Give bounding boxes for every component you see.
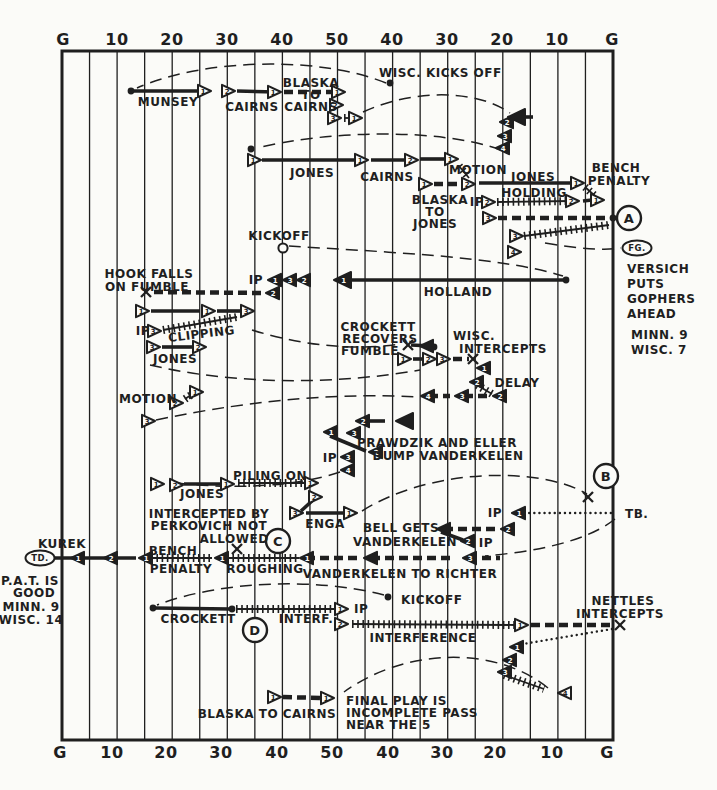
down-number: 2: [569, 198, 574, 206]
label-prawdzik-and-eller: PRAWDZIK AND ELLER: [357, 436, 517, 450]
label-puts: PUTS: [627, 277, 664, 291]
label-roughing: ROUGHING: [226, 562, 303, 576]
label-jones: JONES: [289, 166, 334, 180]
down-number: 1: [341, 277, 346, 285]
label-ip: IP: [479, 536, 493, 550]
kick-path: [157, 584, 384, 605]
down-number: 1: [271, 89, 276, 97]
ball-spot: [387, 80, 394, 87]
down-number: 1: [347, 510, 352, 518]
drive-marker-b: B: [601, 469, 611, 484]
label-jones: JONES: [510, 170, 555, 184]
down-number: 1: [324, 695, 329, 703]
ball-spot: [610, 215, 617, 222]
label-kurek: KUREK: [38, 537, 86, 551]
kick-path: [257, 134, 501, 150]
label-nettles: NETTLES: [592, 594, 655, 608]
field-diagram: 1211231234112112122133412312113332123122…: [0, 0, 717, 790]
run-line: [155, 608, 230, 609]
label-wisc: WISC.: [453, 329, 495, 343]
label-jones: JONES: [152, 352, 197, 366]
label-dump-vanderkelen: DUMP VANDERKELEN: [372, 449, 523, 463]
label-motion: MOTION: [119, 392, 177, 406]
label-versich: VERSICH: [627, 262, 689, 276]
label-intercepts: INTERCEPTS: [459, 342, 547, 356]
label-bell-gets: BELL GETS: [363, 521, 439, 535]
yardline-label-top: 40: [270, 30, 293, 49]
label-minn-9: MINN. 9: [631, 328, 688, 342]
yardline-label-bottom: 40: [376, 743, 399, 762]
label-penalty: PENALTY: [150, 562, 212, 576]
label-crockett: CROCKETT: [160, 612, 236, 626]
down-number: 3: [145, 418, 150, 426]
label-hook-falls: HOOK FALLS: [105, 267, 194, 281]
label-ip: IP: [136, 324, 150, 338]
label-intercepts: INTERCEPTS: [576, 607, 664, 621]
label-jones: JONES: [412, 217, 457, 231]
label-minn-9: MINN. 9: [2, 600, 59, 614]
down-number: 1: [201, 88, 206, 96]
down-number: 1: [352, 115, 357, 123]
down-number: 3: [486, 215, 491, 223]
yardline-label-bottom: 50: [320, 743, 343, 762]
down-number: 2: [173, 482, 178, 490]
label-bench: BENCH: [149, 544, 198, 558]
yardline-label-bottom: 40: [265, 743, 288, 762]
label-penalty: PENALTY: [588, 174, 650, 188]
down-number: 2: [505, 119, 510, 127]
label-ahead: AHEAD: [627, 307, 676, 321]
label-motion: MOTION: [449, 163, 507, 177]
label-delay: DELAY: [494, 376, 539, 390]
kick-path: [362, 475, 587, 511]
label-interference: INTERFERENCE: [369, 631, 476, 645]
down-number: 2: [271, 290, 276, 298]
down-number: 1: [139, 308, 144, 316]
label-blaska-to-cairns: BLASKA TO CAIRNS: [198, 707, 337, 721]
yardline-label-top: G: [56, 30, 70, 49]
down-number: 1: [220, 555, 225, 563]
down-number: 1: [305, 555, 310, 563]
label-vanderkelen: VANDERKELEN: [353, 535, 457, 549]
down-number: 1: [594, 197, 599, 205]
down-number: 2: [485, 199, 490, 207]
kick-path: [156, 396, 416, 420]
ball-spot: [385, 594, 392, 601]
down-number: 3: [513, 233, 518, 241]
down-number: 4: [511, 249, 516, 257]
down-arrow: [420, 340, 433, 352]
ball-spot: [128, 88, 135, 95]
label-ip: IP: [354, 602, 368, 616]
yardline-label-top: 30: [215, 30, 238, 49]
label-allowed: ALLOWED: [199, 532, 268, 546]
down-number: 4: [346, 467, 351, 475]
down-number: 1: [329, 429, 334, 437]
down-number: 2: [506, 526, 511, 534]
down-number: 1: [308, 480, 313, 488]
yardline-label-top: G: [605, 30, 619, 49]
label-wisc-7: WISC. 7: [631, 343, 687, 357]
down-number: 1: [422, 181, 427, 189]
down-number: 3: [460, 393, 465, 401]
down-number: 2: [475, 379, 480, 387]
down-number: 3: [346, 454, 351, 462]
down-number: 3: [150, 344, 155, 352]
kick-path: [150, 365, 420, 381]
ball-spot: [150, 605, 157, 612]
drive-marker-a: A: [624, 211, 635, 226]
down-number: 1: [193, 389, 198, 397]
yardline-label-top: 20: [490, 30, 513, 49]
label-holding: HOLDING: [501, 186, 567, 200]
yardline-label-bottom: 30: [209, 743, 232, 762]
label-cairns: CAIRNS: [360, 170, 413, 184]
yardline-label-bottom: G: [600, 743, 614, 762]
drive-marker-d: D: [249, 623, 260, 638]
label-perkovich-not: PERKOVICH NOT: [151, 519, 268, 533]
score-marker-fg: FG.: [628, 243, 646, 253]
down-arrow: [396, 413, 413, 429]
yardline-label-top: 40: [380, 30, 403, 49]
down-number: 1: [271, 694, 276, 702]
down-number: 3: [468, 555, 473, 563]
down-number: 1: [224, 481, 229, 489]
down-number: 3: [503, 133, 508, 141]
yardline-label-top: 10: [105, 30, 128, 49]
